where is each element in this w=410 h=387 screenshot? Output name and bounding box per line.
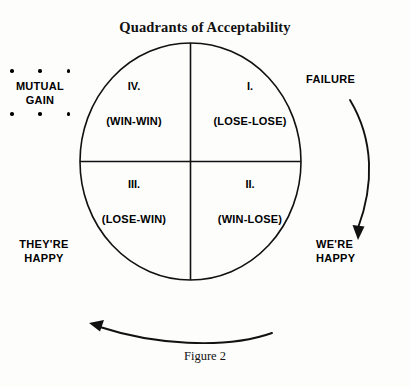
annotation-failure: FAILURE — [306, 73, 398, 87]
arrow-right-down-icon — [350, 100, 369, 240]
figure-container: Quadrants of Acceptability I. (LOSE-LOSE… — [0, 0, 410, 387]
quadrant-3-roman: III. — [84, 178, 184, 192]
arrow-bottom-left-icon — [89, 320, 272, 343]
quadrant-1-roman: I. — [200, 80, 300, 94]
figure-caption: Figure 2 — [0, 349, 410, 365]
annotation-theyre-happy: THEY'RE HAPPY — [2, 238, 86, 266]
page-title: Quadrants of Acceptability — [0, 18, 410, 36]
dot-icon — [67, 112, 71, 116]
annotation-were-happy: WE'RE HAPPY — [316, 238, 402, 266]
dot-icon — [67, 69, 71, 73]
quadrant-3-outcome: (LOSE-WIN) — [80, 213, 188, 227]
decorative-dots-bottom — [2, 112, 78, 116]
quadrant-4-roman: IV. — [84, 80, 184, 94]
dot-icon — [38, 112, 42, 116]
annotation-mutual-gain: MUTUAL GAIN — [2, 80, 78, 108]
dot-icon — [38, 69, 42, 73]
decorative-dots-top — [2, 69, 78, 73]
quadrant-4-outcome: (WIN-WIN) — [80, 115, 188, 129]
quadrant-1-outcome: (LOSE-LOSE) — [196, 115, 304, 129]
dot-icon — [10, 69, 14, 73]
quadrant-diagram-svg — [0, 0, 410, 387]
dot-icon — [10, 112, 14, 116]
quadrant-2-outcome: (WIN-LOSE) — [196, 213, 304, 227]
quadrant-2-roman: II. — [200, 178, 300, 192]
